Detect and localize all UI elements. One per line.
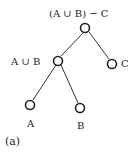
label-union: A ∪ B: [11, 57, 40, 67]
edge-root-union: [61, 33, 83, 56]
caption: (a): [5, 137, 20, 147]
edge-union-b: [61, 65, 78, 103]
tree-edges: [0, 0, 134, 156]
edge-union-a: [33, 65, 56, 100]
label-b: B: [77, 121, 84, 131]
node-a: [26, 101, 35, 110]
label-a: A: [27, 119, 34, 129]
edge-root-c: [89, 32, 109, 59]
node-union: [54, 57, 63, 66]
node-root: [81, 24, 90, 33]
node-c: [108, 60, 117, 69]
label-c: C: [121, 59, 129, 69]
node-b: [76, 104, 85, 113]
label-root: (A ∪ B) − C: [49, 9, 109, 19]
